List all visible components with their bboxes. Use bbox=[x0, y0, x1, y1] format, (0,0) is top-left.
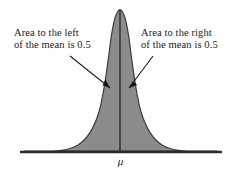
normal-distribution-figure: Area to the left of the mean is 0.5 Area… bbox=[0, 0, 241, 181]
left-area-label-line1: Area to the left bbox=[14, 27, 79, 38]
left-area-label: Area to the left of the mean is 0.5 bbox=[14, 27, 91, 50]
left-area-label-line2: of the mean is 0.5 bbox=[14, 39, 91, 51]
left-leader-line bbox=[70, 56, 110, 88]
right-area-label: Area to the right of the mean is 0.5 bbox=[141, 27, 218, 50]
mean-axis-label: μ bbox=[0, 155, 241, 167]
mean-symbol-text: μ bbox=[118, 155, 124, 167]
right-area-label-line2: of the mean is 0.5 bbox=[141, 39, 218, 51]
right-area-label-line1: Area to the right bbox=[141, 27, 212, 38]
